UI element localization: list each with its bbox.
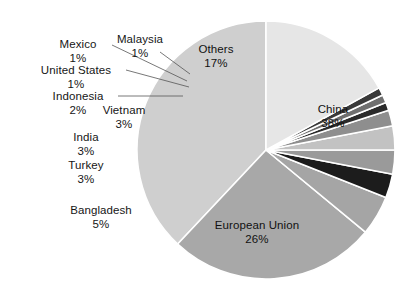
slice-value-china: 38% xyxy=(300,117,366,131)
slice-value-india: 3% xyxy=(55,145,117,159)
slice-label-others: Others xyxy=(178,43,254,57)
slice-callout-india: India 3% xyxy=(55,131,117,158)
slice-label-block-china: China 38% xyxy=(300,103,366,130)
slice-value-european-union: 26% xyxy=(205,233,309,247)
slice-label-block-others: Others 17% xyxy=(178,43,254,70)
slice-value-vietnam: 3% xyxy=(90,118,158,132)
slice-label-bangladesh: Bangladesh xyxy=(54,204,148,218)
slice-callout-malaysia: Malaysia 1% xyxy=(104,33,176,60)
slice-value-malaysia: 1% xyxy=(104,47,176,61)
slice-callout-united-states: United States 1% xyxy=(27,64,125,91)
slice-value-turkey: 3% xyxy=(53,173,119,187)
slice-label-malaysia: Malaysia xyxy=(104,33,176,47)
slice-label-european-union: European Union xyxy=(205,219,309,233)
slice-label-turkey: Turkey xyxy=(53,159,119,173)
slice-label-india: India xyxy=(55,131,117,145)
slice-label-indonesia: Indonesia xyxy=(38,90,118,104)
slice-label-china: China xyxy=(300,103,366,117)
slice-callout-bangladesh: Bangladesh 5% xyxy=(54,204,148,231)
slice-value-bangladesh: 5% xyxy=(54,218,148,232)
slice-callout-vietnam: Vietnam 3% xyxy=(90,104,158,131)
slice-label-vietnam: Vietnam xyxy=(90,104,158,118)
pie-chart: Mexico 1% Malaysia 1% United States 1% I… xyxy=(0,0,407,288)
slice-label-block-european-union: European Union 26% xyxy=(205,219,309,246)
slice-label-united-states: United States xyxy=(27,64,125,78)
slice-value-others: 17% xyxy=(178,57,254,71)
slice-callout-turkey: Turkey 3% xyxy=(53,159,119,186)
